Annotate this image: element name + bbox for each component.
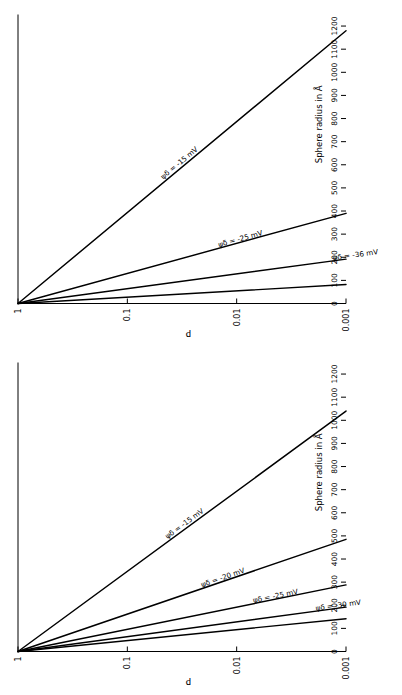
lower-x-tick-label: 1100: [330, 387, 339, 406]
upper-x-axis-title: Sphere radius in Å: [313, 85, 324, 163]
upper-x-tick-label: 1200: [330, 16, 339, 35]
lower-x-tick-label: 900: [330, 436, 339, 451]
lower-x-tick-label: 600: [330, 505, 339, 520]
upper-x-tick-label: 700: [330, 134, 339, 149]
lower-series-line: [18, 607, 346, 651]
lower-series-label: ψδ = -25 mV: [252, 586, 299, 604]
lower-series-label: ψδ = -15 mV: [163, 506, 205, 540]
lower-y-tick-label: 0.1: [123, 656, 132, 669]
lower-x-axis-title: Sphere radius in Å: [313, 433, 324, 511]
upper-chart-rotated-stage: 0100200300400500600700800900100011001200…: [0, 0, 402, 347]
upper-y-tick-label: 1: [14, 308, 23, 313]
lower-x-tick-label: 400: [330, 551, 339, 566]
lower-x-tick-label: 100: [330, 621, 339, 636]
lower-y-tick-label: 1: [14, 656, 23, 661]
lower-x-tick-label: 0: [330, 648, 339, 653]
upper-series-label: ψδ = -36 mV: [332, 247, 379, 262]
upper-chart-panel: 0100200300400500600700800900100011001200…: [0, 0, 402, 347]
lower-chart-plot: 0100200300400500600700800900100011001200…: [0, 348, 402, 695]
lower-x-tick-label: 800: [330, 459, 339, 474]
upper-y-axis-title: P: [185, 327, 191, 337]
lower-y-axis-title: P: [185, 675, 191, 685]
lower-y-tick-label: 0.001: [342, 656, 351, 679]
lower-series-label: ψδ = -20 mV: [200, 565, 246, 588]
upper-series-label: ψδ = -25 mV: [217, 228, 264, 249]
upper-x-tick-label: 900: [330, 88, 339, 103]
lower-chart-rotated-stage: 0100200300400500600700800900100011001200…: [0, 348, 402, 695]
upper-x-tick-label: 1000: [330, 62, 339, 81]
lower-y-tick-label: 0.01: [233, 656, 242, 674]
upper-y-tick-label: 0.01: [233, 308, 242, 326]
upper-y-tick-label: 0.001: [342, 308, 351, 331]
lower-chart-panel: 0100200300400500600700800900100011001200…: [0, 348, 402, 695]
upper-x-tick-label: 500: [330, 180, 339, 195]
lower-x-tick-label: 1200: [330, 364, 339, 383]
upper-x-tick-label: 1100: [330, 39, 339, 58]
lower-x-tick-label: 500: [330, 528, 339, 543]
upper-y-tick-label: 0.1: [123, 308, 132, 321]
upper-series-line: [18, 213, 346, 303]
upper-chart-plot: 0100200300400500600700800900100011001200…: [0, 0, 402, 347]
upper-series-line: [18, 284, 346, 303]
upper-x-tick-label: 600: [330, 157, 339, 172]
figure-page: 0100200300400500600700800900100011001200…: [0, 0, 402, 695]
upper-x-tick-label: 0: [330, 300, 339, 305]
upper-x-tick-label: 800: [330, 111, 339, 126]
upper-series-line: [18, 259, 346, 303]
upper-series-line: [18, 30, 346, 303]
lower-x-tick-label: 700: [330, 482, 339, 497]
upper-x-tick-label: 300: [330, 226, 339, 241]
upper-series-label: ψδ = -15 mV: [159, 144, 200, 180]
